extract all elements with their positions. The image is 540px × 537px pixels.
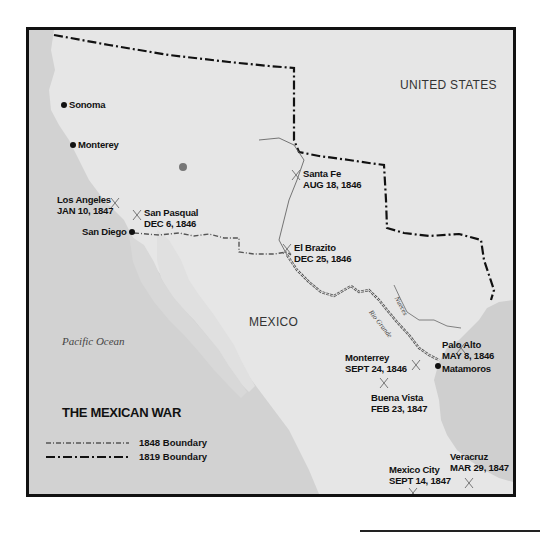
label-pacific-ocean: Pacific Ocean — [62, 335, 125, 347]
battle-name: Veracruz — [450, 451, 509, 462]
battle-date: MAR 29, 1847 — [450, 462, 509, 473]
battle-marker-san-pasqual — [133, 210, 141, 220]
battle-date: SEPT 24, 1846 — [345, 363, 407, 374]
label-sonoma: Sonoma — [69, 99, 105, 110]
label-mexico: MEXICO — [249, 315, 298, 329]
battle-marker-veracruz — [465, 478, 473, 488]
town-dot-monterey — [70, 142, 76, 148]
label-battle-mexico-city: Mexico City SEPT 14, 1847 — [389, 464, 451, 486]
battle-marker-mexico-city — [409, 488, 417, 494]
label-monterey: Monterey — [78, 139, 119, 150]
battle-date: AUG 18, 1846 — [303, 179, 361, 190]
label-battle-veracruz: Veracruz MAR 29, 1847 — [450, 451, 509, 473]
map-title: THE MEXICAN WAR — [62, 405, 181, 420]
battle-date: MAY 8, 1846 — [442, 350, 494, 361]
battle-name: Palo Alto — [442, 339, 494, 350]
page-rule — [360, 530, 540, 532]
label-battle-san-pasqual: San Pasqual DEC 6, 1846 — [144, 207, 198, 229]
battle-marker-buena-vista — [380, 378, 388, 388]
label-battle-el-brazito: El Brazito DEC 25, 1846 — [294, 242, 351, 264]
label-battle-buena-vista: Buena Vista FEB 23, 1847 — [371, 392, 427, 414]
town-dot-sonoma — [61, 102, 67, 108]
battle-date: FEB 23, 1847 — [371, 403, 427, 414]
legend-label-1848: 1848 Boundary — [139, 437, 207, 448]
label-san-diego: San Diego — [82, 226, 127, 237]
battle-date: JAN 10, 1847 — [57, 205, 113, 216]
map-frame: UNITED STATES MEXICO Pacific Ocean Rio G… — [26, 27, 516, 497]
river-rio-grande-upper — [259, 138, 304, 255]
battle-name: San Pasqual — [144, 207, 198, 218]
label-matamoros: Matamoros — [442, 363, 491, 374]
label-battle-santa-fe: Santa Fe AUG 18, 1846 — [303, 168, 361, 190]
legend-label-1819: 1819 Boundary — [139, 451, 207, 462]
battle-name: El Brazito — [294, 242, 351, 253]
location-dot-grey — [179, 163, 187, 171]
label-battle-palo-alto: Palo Alto MAY 8, 1846 — [442, 339, 494, 361]
battle-date: DEC 25, 1846 — [294, 253, 351, 264]
town-dot-san-diego — [129, 229, 135, 235]
battle-date: DEC 6, 1846 — [144, 218, 198, 229]
battle-name: Buena Vista — [371, 392, 427, 403]
battle-name: Mexico City — [389, 464, 451, 475]
battle-marker-monterrey — [412, 360, 420, 370]
battle-name: Los Angeles — [57, 194, 113, 205]
battle-name: Santa Fe — [303, 168, 361, 179]
label-battle-los-angeles: Los Angeles JAN 10, 1847 — [57, 194, 113, 216]
label-battle-monterrey: Monterrey SEPT 24, 1846 — [345, 352, 407, 374]
label-united-states: UNITED STATES — [400, 78, 497, 92]
battle-name: Monterrey — [345, 352, 407, 363]
river-rio-grande-lower-inner — [287, 255, 439, 360]
battle-date: SEPT 14, 1847 — [389, 475, 451, 486]
town-dot-matamoros — [435, 363, 441, 369]
